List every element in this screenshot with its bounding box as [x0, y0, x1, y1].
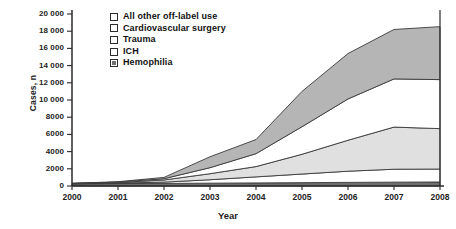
legend-swatch-icon [110, 48, 118, 56]
legend-item: Trauma [110, 34, 226, 46]
legend-swatch-icon [110, 36, 118, 44]
legend-swatch-icon [110, 24, 118, 32]
chart-legend: All other off-label useCardiovascular su… [110, 11, 226, 69]
legend-item: Hemophilia [110, 57, 226, 69]
chart-figure: Cases, n 0200040006000800010 00012 00014… [0, 0, 456, 229]
legend-item: Cardiovascular surgery [110, 23, 226, 35]
legend-swatch-icon [110, 59, 118, 67]
legend-label: ICH [123, 46, 139, 58]
legend-label: Cardiovascular surgery [123, 23, 226, 35]
legend-label: Hemophilia [123, 57, 173, 69]
legend-label: All other off-label use [123, 11, 217, 23]
legend-label: Trauma [123, 34, 156, 46]
legend-swatch-icon [110, 13, 118, 21]
legend-item: All other off-label use [110, 11, 226, 23]
legend-item: ICH [110, 46, 226, 58]
plot-area [0, 0, 456, 229]
